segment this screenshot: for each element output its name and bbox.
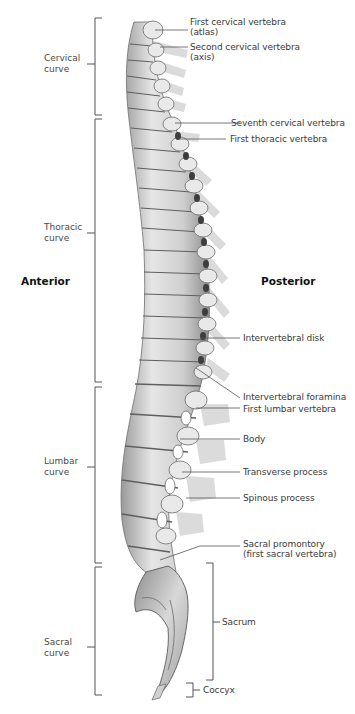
spine-diagram: Cervical curve Thoracic curve Lumbar cur… [0, 0, 355, 714]
region-label-thoracic: Thoracic curve [44, 222, 82, 244]
label-first-cervical-vertebra: First cervical vertebra (atlas) [190, 17, 286, 37]
label-transverse-process: Transverse process [243, 467, 327, 477]
label-second-cervical-vertebra: Second cervical vertebra (axis) [190, 42, 300, 62]
label-sacral-promontory: Sacral promontory (first sacral vertebra… [243, 539, 336, 559]
label-intervertebral-foramina: Intervertebral foramina [243, 392, 346, 402]
sacrum-illustration [135, 566, 188, 696]
label-body: Body [243, 434, 265, 444]
region-label-sacral: Sacral curve [44, 637, 72, 659]
region-label-lumbar: Lumbar curve [44, 456, 78, 478]
region-label-cervical: Cervical curve [44, 53, 80, 75]
label-coccyx: Coccyx [203, 685, 235, 695]
label-intervertebral-disk: Intervertebral disk [243, 333, 324, 343]
label-spinous-process: Spinous process [243, 493, 314, 503]
anterior-label: Anterior [21, 275, 70, 287]
label-sacrum: Sacrum [222, 617, 256, 627]
label-first-thoracic-vertebra: First thoracic vertebra [230, 134, 327, 144]
region-brackets [87, 18, 102, 695]
label-first-lumbar-vertebra: First lumbar vertebra [243, 404, 336, 414]
posterior-label: Posterior [261, 275, 315, 287]
coccyx-illustration [152, 684, 166, 700]
vertebral-column-illustration [0, 0, 355, 714]
label-seventh-cervical-vertebra: Seventh cervical vertebra [231, 118, 345, 128]
sacrum-coccyx-brackets [186, 563, 220, 697]
